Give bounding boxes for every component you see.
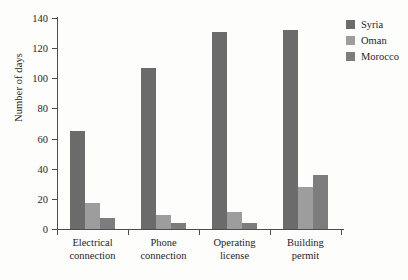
bar-syria-phone-connection xyxy=(141,68,156,229)
plot-area xyxy=(57,18,341,229)
y-axis-tick-label: 0 xyxy=(2,224,48,235)
bar-morocco-building-permit xyxy=(313,175,328,229)
x-axis-line xyxy=(57,229,344,230)
bar-syria-electrical-connection xyxy=(70,131,85,229)
bar-oman-building-permit xyxy=(298,187,313,229)
chart-legend: SyriaOmanMorocco xyxy=(346,16,399,64)
bar-morocco-operating-license xyxy=(242,223,257,229)
bar-morocco-electrical-connection xyxy=(100,218,115,229)
y-axis-tick-label: 20 xyxy=(2,193,48,204)
x-axis-label-phone-connection: Phoneconnection xyxy=(128,236,199,262)
legend-label-morocco: Morocco xyxy=(361,51,399,62)
bar-oman-electrical-connection xyxy=(85,203,100,229)
legend-item-morocco: Morocco xyxy=(346,48,399,64)
legend-swatch-oman xyxy=(346,36,355,45)
legend-swatch-syria xyxy=(346,20,355,29)
bar-oman-operating-license xyxy=(227,212,242,229)
x-axis-label-electrical-connection: Electricalconnection xyxy=(57,236,128,262)
legend-label-syria: Syria xyxy=(361,19,383,30)
bar-chart: Number of days 020406080100120140 Electr… xyxy=(0,0,408,280)
bar-syria-operating-license xyxy=(212,32,227,229)
legend-label-oman: Oman xyxy=(361,35,387,46)
legend-swatch-morocco xyxy=(346,52,355,61)
bar-syria-building-permit xyxy=(283,30,298,229)
x-axis-separator xyxy=(57,230,58,235)
x-axis-separator xyxy=(128,230,129,235)
y-axis-tick-label: 60 xyxy=(2,133,48,144)
y-axis-tick-label: 140 xyxy=(2,13,48,24)
bar-morocco-phone-connection xyxy=(171,223,186,229)
x-axis-label-operating-license: Operatinglicense xyxy=(199,236,270,262)
y-axis-tick-label: 40 xyxy=(2,163,48,174)
x-axis-separator xyxy=(199,230,200,235)
legend-item-syria: Syria xyxy=(346,16,399,32)
x-axis-separator xyxy=(341,230,342,235)
y-axis-tick-label: 80 xyxy=(2,103,48,114)
y-axis-tick-label: 100 xyxy=(2,73,48,84)
bar-oman-phone-connection xyxy=(156,215,171,229)
x-axis-separator xyxy=(270,230,271,235)
y-axis-tick-label: 120 xyxy=(2,43,48,54)
legend-item-oman: Oman xyxy=(346,32,399,48)
x-axis-label-building-permit: Buildingpermit xyxy=(270,236,341,262)
